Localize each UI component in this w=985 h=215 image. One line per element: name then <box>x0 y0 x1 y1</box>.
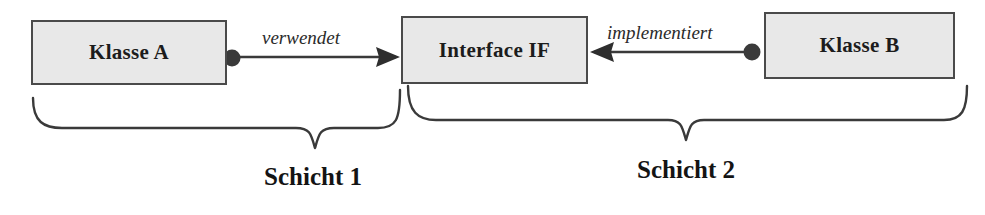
edge-label-verwendet: verwendet <box>262 27 340 49</box>
node-klasse-a-label: Klasse A <box>89 40 169 65</box>
layer-label-schicht-2: Schicht 2 <box>586 156 786 184</box>
brace-schicht-2-icon <box>408 86 967 140</box>
verwendet-arrowhead-icon <box>376 47 400 67</box>
node-interface-if[interactable]: Interface IF <box>401 16 588 84</box>
implementiert-arrowhead-icon <box>590 42 614 62</box>
uml-layer-diagram: Klasse A Interface IF Klasse B verwendet… <box>0 0 985 215</box>
node-klasse-b-label: Klasse B <box>820 33 900 58</box>
brace-schicht-1-icon <box>33 90 400 148</box>
implementiert-connector <box>590 42 761 62</box>
verwendet-connector <box>224 47 401 67</box>
layer-label-schicht-1: Schicht 1 <box>213 163 413 191</box>
edge-label-implementiert: implementiert <box>607 22 713 44</box>
implementiert-source-dot-icon <box>744 44 761 61</box>
node-klasse-a[interactable]: Klasse A <box>31 20 227 85</box>
node-interface-if-label: Interface IF <box>439 38 550 63</box>
node-klasse-b[interactable]: Klasse B <box>764 12 955 79</box>
